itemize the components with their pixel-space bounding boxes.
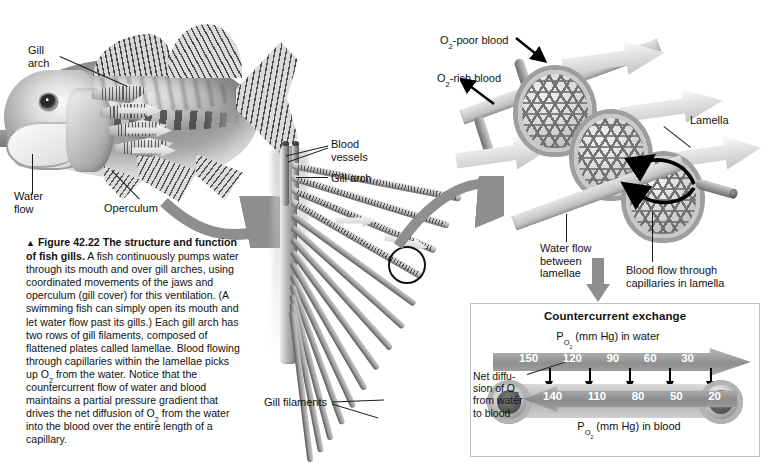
blood-flow-lam-leader xyxy=(652,212,653,262)
figure-42-22: Gill arch Water flow Operculum xyxy=(0,0,763,463)
water-axis-label: PO2 (mm Hg) in water xyxy=(471,330,745,344)
water-po2-values: 150 120 90 60 30 xyxy=(519,352,694,364)
water-po2-value: 150 xyxy=(519,352,538,364)
label-water-flow: Water flow xyxy=(14,190,43,215)
label-lamella: Lamella xyxy=(690,114,729,127)
blood-po2-value: 140 xyxy=(543,390,562,402)
label-blood-flow-capillaries: Blood flow through capillaries in lamell… xyxy=(626,264,724,289)
figure-caption: ▲ Figure 42.22 The structure and functio… xyxy=(26,236,240,447)
water-po2-value: 30 xyxy=(681,352,694,364)
label-operculum: Operculum xyxy=(104,202,158,215)
label-gill-filaments: Gill filaments xyxy=(264,396,327,409)
dorsal-soft-fin xyxy=(168,24,242,78)
connector-arrow-to-countercurrent-box xyxy=(584,258,618,306)
water-po2-value: 120 xyxy=(563,352,582,364)
water-flow-leader xyxy=(32,154,33,194)
blood-axis-label: PO2 (mm Hg) in blood xyxy=(499,420,759,434)
label-o2-poor-blood: O2-poor blood xyxy=(440,34,508,47)
countercurrent-title: Countercurrent exchange xyxy=(471,310,759,322)
gill-arch-mid-leader xyxy=(296,177,328,178)
blood-po2-values: 140 110 80 50 20 xyxy=(543,390,721,402)
label-blood-vessels: Blood vessels xyxy=(331,138,368,163)
water-po2-value: 90 xyxy=(606,352,619,364)
gill-arch-stack xyxy=(92,82,178,170)
dorsal-spiny-fin xyxy=(93,34,177,76)
o2-poor-arrow xyxy=(514,36,554,70)
blood-po2-value: 50 xyxy=(670,390,683,402)
blood-po2-value: 110 xyxy=(588,390,607,402)
gill-arch-1 xyxy=(92,84,152,103)
countercurrent-exchange-panel: Countercurrent exchange PO2 (mm Hg) in w… xyxy=(470,303,760,457)
caption-marker: ▲ xyxy=(26,238,35,248)
caption-figure-number: Figure 42.22 xyxy=(38,236,100,248)
water-flow-lam-leader xyxy=(566,214,567,242)
caption-body: A fish continuously pumps water through … xyxy=(26,250,240,445)
label-gill-arch-fish: Gill arch xyxy=(28,44,49,69)
fish-eye xyxy=(40,94,57,110)
label-gill-arch-mid: Gill arch xyxy=(331,172,371,185)
blood-po2-value: 80 xyxy=(632,390,645,402)
blood-po2-value: 20 xyxy=(708,390,721,402)
net-diffusion-label: Net diffu-sion of O2from waterto blood xyxy=(473,370,533,419)
gill-filaments-leaders xyxy=(330,398,390,424)
water-po2-value: 60 xyxy=(644,352,657,364)
o2-rich-arrow xyxy=(460,78,504,112)
